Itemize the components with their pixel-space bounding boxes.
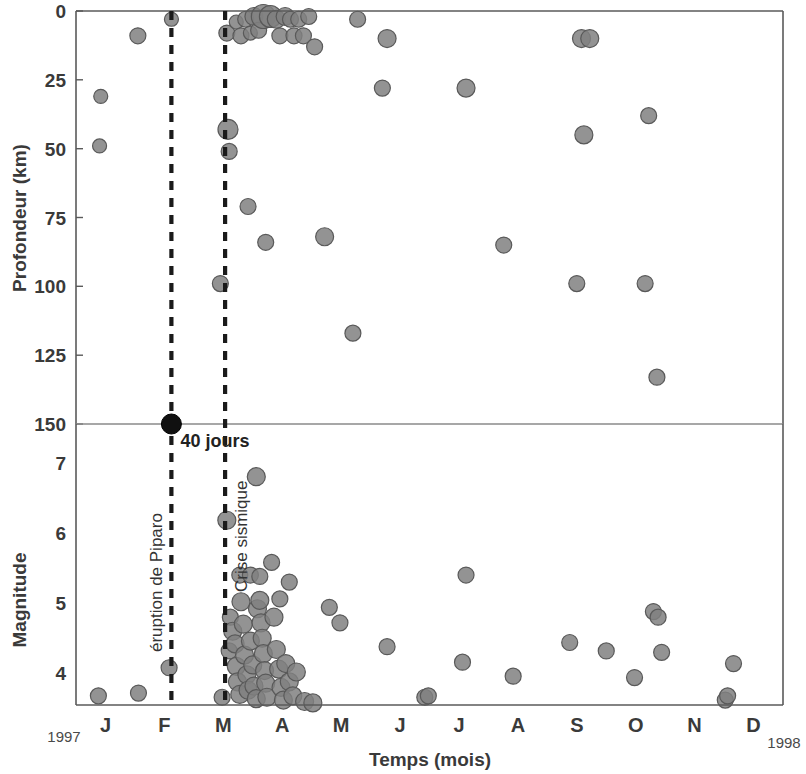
depth-data-point [378, 30, 396, 48]
month-label-n-10: N [687, 714, 701, 736]
depth-data-point [496, 237, 512, 253]
month-label-j-6: J [453, 714, 464, 736]
magnitude-data-point [287, 663, 305, 681]
magnitude-data-point [272, 591, 288, 607]
magnitude-data-point [720, 688, 736, 704]
depth-data-point [575, 126, 593, 144]
month-label-a-7: A [511, 714, 525, 736]
depth-tick-label: 25 [45, 70, 67, 91]
magnitude-tick-label: 4 [55, 663, 66, 684]
depth-data-point [94, 89, 108, 103]
depth-tick-label: 0 [55, 1, 66, 22]
magnitude-data-point [252, 568, 268, 584]
magnitude-data-point [264, 554, 280, 570]
year-start-label: 1997 [47, 728, 80, 745]
magnitude-data-point [332, 615, 348, 631]
magnitude-data-point [234, 615, 252, 633]
chart-background [0, 0, 806, 774]
magnitude-data-point [627, 670, 643, 686]
magnitude-data-point [562, 634, 578, 650]
magnitude-tick-label: 6 [55, 523, 66, 544]
depth-data-point [345, 325, 361, 341]
depth-data-point [637, 276, 653, 292]
depth-data-point [258, 234, 274, 250]
magnitude-data-point [161, 660, 177, 676]
depth-tick-label: 100 [34, 276, 66, 297]
magnitude-data-point [232, 593, 250, 611]
magnitude-data-point [458, 567, 474, 583]
depth-data-point [240, 198, 256, 214]
depth-data-point [350, 11, 366, 27]
magnitude-axis-title: Magnitude [9, 553, 30, 648]
depth-data-point [218, 119, 238, 139]
depth-tick-label: 75 [45, 208, 67, 229]
interval-annotation-label: 40 jours [180, 431, 249, 451]
depth-data-point [93, 139, 107, 153]
magnitude-data-point [650, 609, 666, 625]
depth-data-point [307, 39, 323, 55]
month-label-s-8: S [570, 714, 583, 736]
depth-data-point [374, 80, 390, 96]
month-label-m-2: M [215, 714, 232, 736]
magnitude-tick-label: 7 [55, 453, 66, 474]
magnitude-data-point [214, 689, 230, 705]
month-label-j-0: J [100, 714, 111, 736]
magnitude-data-point [130, 685, 146, 701]
magnitude-data-point [281, 574, 297, 590]
month-label-f-1: F [158, 714, 170, 736]
chart-canvas: 0255075100125150 Profondeur (km) 4567 Ma… [0, 0, 806, 774]
magnitude-data-point [251, 591, 269, 609]
crisis-line-label: Crise sismique [232, 481, 251, 592]
depth-data-point [581, 30, 599, 48]
magnitude-data-point [304, 694, 322, 712]
magnitude-data-point [265, 608, 283, 626]
depth-tick-label: 50 [45, 139, 66, 160]
depth-tick-label: 150 [34, 414, 66, 435]
depth-data-point [641, 108, 657, 124]
magnitude-data-point [598, 643, 614, 659]
depth-data-point [316, 228, 334, 246]
depth-data-point [457, 79, 475, 97]
depth-data-point [569, 276, 585, 292]
depth-tick-label: 125 [34, 345, 66, 366]
depth-data-point [649, 369, 665, 385]
magnitude-tick-label: 5 [55, 593, 66, 614]
depth-axis-title: Profondeur (km) [9, 144, 30, 292]
eruption-line-label: éruption de Piparo [147, 513, 166, 652]
eruption-marker-icon [161, 414, 181, 434]
month-label-m-4: M [333, 714, 350, 736]
magnitude-data-point [454, 654, 470, 670]
month-label-a-3: A [275, 714, 289, 736]
time-axis-title: Temps (mois) [369, 749, 491, 770]
magnitude-data-point [654, 644, 670, 660]
depth-data-point [130, 28, 146, 44]
month-label-d-11: D [746, 714, 760, 736]
magnitude-data-point [90, 688, 106, 704]
year-end-label: 1998 [767, 734, 800, 751]
magnitude-data-point [379, 639, 395, 655]
month-label-j-5: J [394, 714, 405, 736]
magnitude-data-point [726, 656, 742, 672]
magnitude-data-point [420, 688, 436, 704]
magnitude-data-point [321, 599, 337, 615]
seismicity-figure: 0255075100125150 Profondeur (km) 4567 Ma… [0, 0, 806, 774]
magnitude-data-point [505, 668, 521, 684]
month-label-o-9: O [628, 714, 644, 736]
